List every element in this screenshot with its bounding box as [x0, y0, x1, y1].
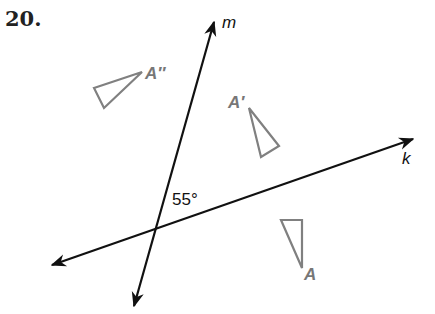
line-m-label: m — [222, 14, 236, 31]
label-a: A — [304, 266, 316, 283]
line-k-label: k — [402, 150, 411, 167]
diagram-canvas — [0, 0, 435, 314]
triangle-a-prime — [249, 108, 279, 157]
triangle-a-double-prime — [94, 72, 142, 108]
angle-label: 55° — [172, 191, 198, 208]
diagram: 20. m k 55° A″ A′ A — [0, 0, 435, 314]
problem-number: 20. — [5, 8, 42, 29]
triangle-a — [281, 220, 302, 268]
line-k — [52, 139, 413, 265]
label-a-prime: A′ — [228, 94, 244, 111]
label-a-double-prime: A″ — [145, 65, 165, 82]
